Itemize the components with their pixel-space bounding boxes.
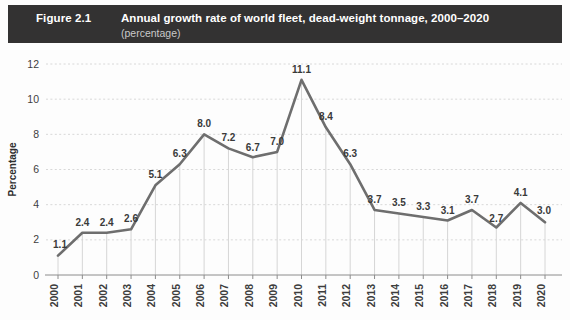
x-tick-label: 2020: [535, 284, 547, 308]
y-tick-label: 4: [33, 198, 39, 210]
x-tick-label: 2000: [48, 284, 60, 308]
x-tick-label: 2019: [511, 284, 523, 308]
data-point-label: 1.1: [53, 239, 67, 250]
data-point-label: 2.4: [75, 217, 89, 228]
x-tick-label: 2012: [340, 284, 352, 308]
data-point-label: 5.1: [148, 169, 162, 180]
y-tick-label: 6: [33, 163, 39, 175]
y-tick-label: 10: [27, 93, 39, 105]
y-tick-label: 2: [33, 233, 39, 245]
x-tick-label: 2010: [292, 284, 304, 308]
data-point-label: 2.7: [489, 213, 503, 224]
x-tick-label: 2001: [72, 284, 84, 308]
figure-header-bar: Figure 2.1 Annual growth rate of world f…: [8, 5, 562, 43]
data-point-label: 3.0: [537, 205, 551, 216]
figure-subtitle: (percentage): [121, 27, 181, 39]
data-point-label: 2.6: [124, 213, 138, 224]
y-axis-tick-labels: 024681012: [27, 58, 39, 281]
data-point-label: 3.3: [416, 201, 430, 212]
data-point-labels: 1.12.42.42.65.16.38.07.26.77.011.18.46.3…: [53, 64, 551, 250]
x-tick-label: 2007: [218, 284, 230, 308]
data-point-label: 3.7: [368, 194, 382, 205]
figure-title: Annual growth rate of world fleet, dead-…: [121, 12, 489, 24]
x-axis-tick-labels: 2000200120022003200420052006200720082009…: [48, 284, 547, 308]
data-point-label: 3.5: [392, 197, 406, 208]
y-tick-label: 8: [33, 128, 39, 140]
data-point-label: 2.4: [100, 217, 114, 228]
y-axis-title: Percentage: [7, 142, 18, 196]
data-point-label: 6.3: [173, 148, 187, 159]
x-tick-label: 2011: [316, 284, 328, 307]
x-tick-label: 2018: [486, 284, 498, 308]
y-tick-label: 0: [33, 269, 39, 281]
data-point-label: 11.1: [292, 64, 311, 75]
figure-container: Figure 2.1 Annual growth rate of world f…: [0, 0, 570, 320]
x-tick-label: 2014: [389, 284, 401, 308]
x-tick-label: 2013: [365, 284, 377, 308]
x-tick-label: 2005: [170, 284, 182, 308]
data-point-label: 8.4: [319, 111, 333, 122]
x-tick-label: 2002: [97, 284, 109, 308]
data-point-label: 3.1: [441, 205, 455, 216]
data-point-label: 3.7: [465, 194, 479, 205]
vertical-gridlines: [58, 80, 545, 275]
figure-number-label: Figure 2.1: [36, 12, 91, 24]
x-tick-label: 2004: [145, 284, 157, 308]
data-point-label: 6.7: [246, 142, 260, 153]
data-point-label: 6.3: [343, 148, 357, 159]
data-point-label: 4.1: [514, 187, 528, 198]
x-tick-label: 2003: [121, 284, 133, 308]
x-tick-label: 2016: [438, 284, 450, 308]
data-point-label: 7.2: [221, 132, 235, 143]
chart-axes: [45, 275, 562, 279]
y-tick-label: 12: [27, 58, 39, 70]
x-tick-label: 2006: [194, 284, 206, 308]
x-tick-label: 2015: [413, 284, 425, 308]
x-tick-label: 2017: [462, 284, 474, 308]
x-tick-label: 2008: [243, 284, 255, 308]
line-chart-plot: 024681012 200020012002200320042005200620…: [0, 43, 570, 320]
data-point-label: 7.0: [270, 136, 284, 147]
x-tick-label: 2009: [267, 284, 279, 308]
data-point-label: 8.0: [197, 118, 211, 129]
